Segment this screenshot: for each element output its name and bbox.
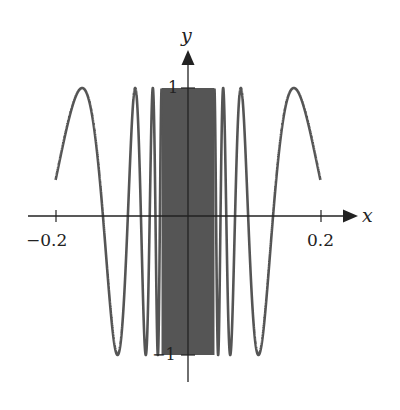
x-tick-label-pos: 0.2: [307, 230, 334, 250]
x-axis-arrow-icon: [343, 210, 358, 223]
x-tick-label-neg: −0.2: [26, 230, 67, 250]
curve-right: [214, 88, 320, 355]
y-axis-arrow-icon: [182, 50, 195, 65]
y-tick-label-top: 1: [168, 78, 178, 97]
x-axis-label: x: [362, 204, 373, 226]
curve-left: [56, 88, 162, 355]
y-axis-label: y: [180, 24, 192, 46]
y-tick-label-bottom: −1: [152, 345, 176, 364]
sin-inverse-plot: y x −0.2 0.2 1 −1: [0, 0, 400, 410]
